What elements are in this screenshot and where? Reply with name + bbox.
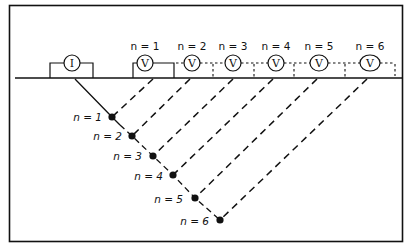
voltmeter-n2: V — [184, 55, 200, 71]
dipole-dipole-diagram: I V V V V V V n = — [0, 0, 410, 251]
label-top-n4: n = 4 — [262, 40, 291, 52]
voltmeter-n5: V — [310, 55, 328, 71]
voltmeter-n4: V — [268, 55, 284, 71]
svg-text:V: V — [140, 57, 150, 70]
label-point-n4: n = 4 — [134, 170, 163, 182]
label-point-n3: n = 3 — [113, 150, 142, 162]
svg-text:V: V — [314, 57, 324, 70]
label-top-n1: n = 1 — [131, 40, 160, 52]
plot-point-n1 — [108, 113, 115, 120]
label-top-n2: n = 2 — [178, 40, 207, 52]
label-point-n2: n = 2 — [93, 130, 122, 142]
svg-text:V: V — [271, 57, 281, 70]
label-point-n1: n = 1 — [73, 111, 102, 123]
plot-point-n5 — [191, 194, 198, 201]
voltmeter-n6: V — [360, 55, 380, 71]
svg-text:V: V — [187, 57, 197, 70]
label-top-n5: n = 5 — [305, 40, 334, 52]
plot-point-n4 — [169, 171, 176, 178]
svg-text:V: V — [365, 57, 375, 70]
voltmeter-n3: V — [225, 55, 241, 71]
ammeter-symbol: I — [70, 57, 74, 70]
svg-text:V: V — [228, 57, 238, 70]
plot-point-n2 — [128, 132, 135, 139]
current-dipole: I — [50, 55, 93, 78]
plot-point-n3 — [149, 152, 156, 159]
plot-point-n6 — [216, 216, 223, 223]
label-point-n6: n = 6 — [180, 215, 209, 227]
potential-dipole-diagonals — [112, 79, 367, 220]
label-top-n3: n = 3 — [219, 40, 248, 52]
label-top-n6: n = 6 — [356, 40, 385, 52]
label-point-n5: n = 5 — [154, 193, 183, 205]
potential-dipole-1: V — [133, 55, 174, 78]
